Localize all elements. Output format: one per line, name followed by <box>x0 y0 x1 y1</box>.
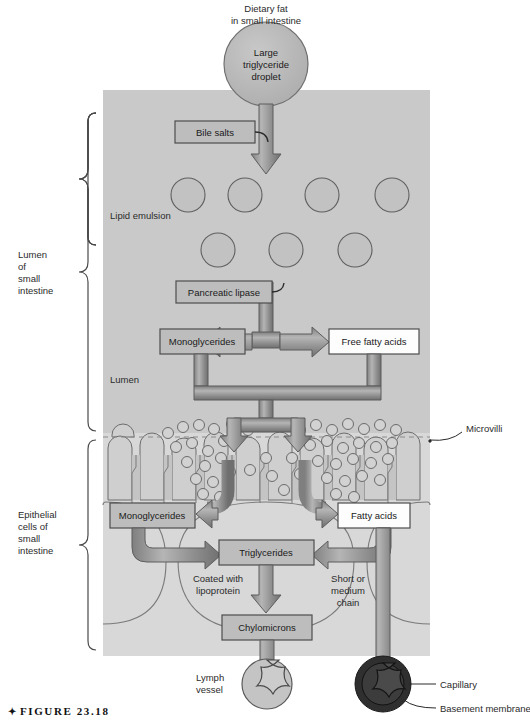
capillary <box>355 656 411 712</box>
capillary-label: Capillary <box>440 679 477 690</box>
monoglycerides-cell-label: Monoglycerides <box>119 510 186 521</box>
triglycerides-label: Triglycerides <box>239 547 293 558</box>
bile-salts-label: Bile salts <box>196 127 234 138</box>
lumen-brace-long <box>79 113 96 431</box>
free-fatty-acids-label: Free fatty acids <box>342 336 407 347</box>
caption-text: FIGURE 23.18 <box>20 705 109 717</box>
basement-membrane-label: Basement membrane <box>440 703 530 714</box>
pancreatic-lipase-label: Pancreatic lipase <box>188 287 260 298</box>
lumen-inline-label: Lumen <box>110 374 139 385</box>
coated-with-label-line2: lipoprotein <box>196 585 240 596</box>
dietary-fat-label-line1: Dietary fat <box>244 3 288 14</box>
epithelial-brace <box>79 440 96 650</box>
epithelial-brace-label-line4: intestine <box>18 545 53 556</box>
droplet-label-line3: droplet <box>251 71 280 82</box>
microvilli-label: Microvilli <box>466 423 502 434</box>
monoglycerides-lumen-label: Monoglycerides <box>169 336 236 347</box>
lipid-digestion-diagram: Large triglyceride droplet Dietary fat i… <box>0 0 530 727</box>
epithelial-brace-label-line1: Epithelial <box>18 509 57 520</box>
fatty-acids-label: Fatty acids <box>351 510 397 521</box>
figure-caption: ✦FIGURE 23.18 <box>8 705 109 717</box>
epithelial-brace-label-line3: small <box>18 533 40 544</box>
lymph-vessel-label-line1: Lymph <box>196 672 224 683</box>
caption-diamond-icon: ✦ <box>8 706 16 717</box>
chylomicrons-label: Chylomicrons <box>238 622 296 633</box>
short-chain-label-line3: chain <box>337 597 360 608</box>
lipid-emulsion-label: Lipid emulsion <box>110 210 171 221</box>
short-chain-label-line2: medium <box>331 585 365 596</box>
coated-with-label-line1: Coated with <box>193 573 243 584</box>
figure-container: Large triglyceride droplet Dietary fat i… <box>0 0 530 727</box>
droplet-label-line2: triglyceride <box>243 59 289 70</box>
lumen-brace-label-line3: small <box>18 273 40 284</box>
lumen-brace-label-line1: Lumen <box>18 249 47 260</box>
microvilli-leader-line <box>429 432 462 442</box>
epithelial-brace-label-line2: cells of <box>18 521 48 532</box>
dietary-fat-label-line2: in small intestine <box>231 15 301 26</box>
lumen-brace-label-line4: intestine <box>18 285 53 296</box>
droplet-label-line1: Large <box>254 47 278 58</box>
short-chain-label-line1: Short or <box>331 573 365 584</box>
lumen-brace-label-line2: of <box>18 261 26 272</box>
lymph-vessel <box>242 659 292 709</box>
lymph-vessel-label-line2: vessel <box>196 684 223 695</box>
